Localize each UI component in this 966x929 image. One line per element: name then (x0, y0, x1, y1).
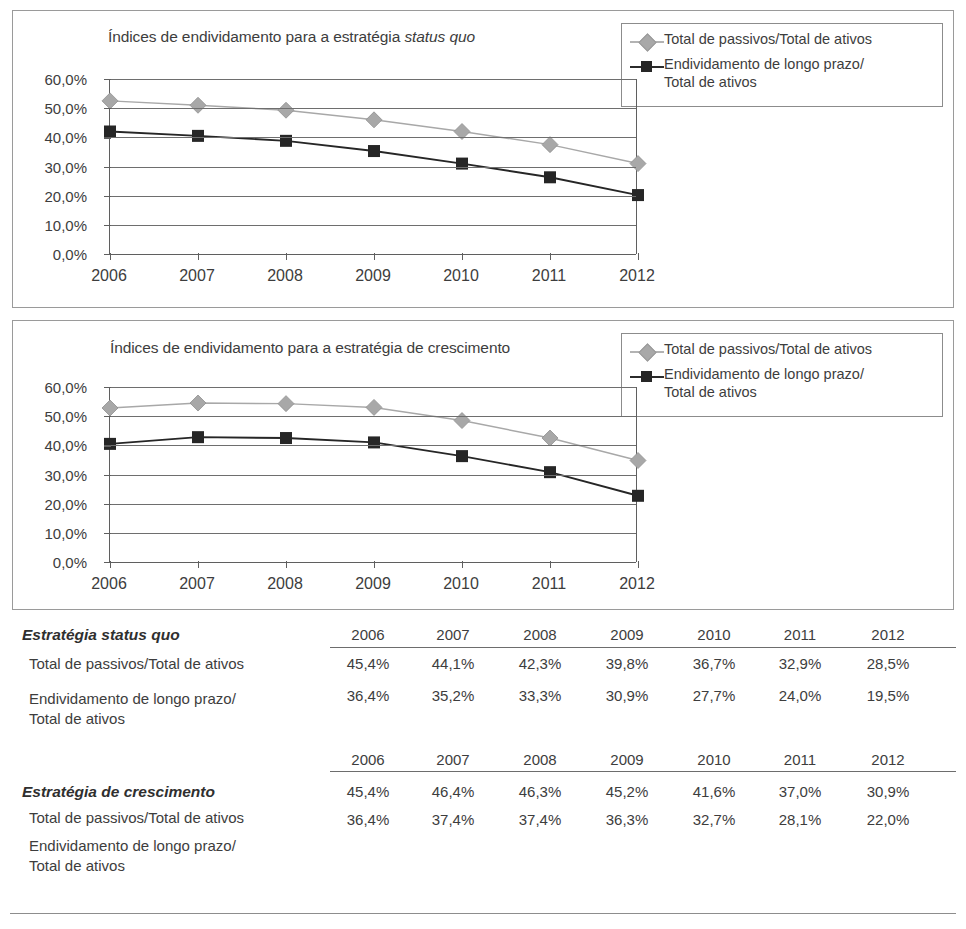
gridline (110, 137, 636, 138)
chart-title-crescimento: Índices de endividamento para a estratég… (110, 339, 510, 357)
data-point-square (192, 431, 204, 443)
gridline (110, 108, 636, 109)
x-axis-tick-label: 2011 (532, 267, 566, 285)
table-cell: 37,4% (432, 811, 475, 828)
table-cell: 42,3% (519, 655, 562, 672)
chart-panel-status-quo: Índices de endividamento para a estratég… (12, 10, 954, 308)
table-cell: 41,6% (693, 783, 736, 800)
data-point-diamond (630, 156, 646, 172)
gridline (110, 445, 636, 446)
x-axis-tick (110, 561, 111, 568)
series-line (110, 132, 638, 196)
x-axis-tick-label: 2012 (619, 267, 655, 285)
gridline (110, 225, 636, 226)
y-axis-tick-label: 60,0% (44, 379, 87, 396)
data-point-square (368, 436, 380, 448)
table-column-header: 2008 (523, 751, 556, 768)
x-axis-tick-label: 2012 (619, 575, 655, 593)
x-axis-tick (638, 561, 639, 568)
diamond-gray-icon (630, 343, 664, 360)
table-column-header: 2007 (436, 751, 469, 768)
table-column-header: 2006 (351, 751, 384, 768)
x-axis-tick (110, 253, 111, 260)
data-point-square (280, 432, 292, 444)
y-axis-tick-label: 50,0% (44, 408, 87, 425)
table-cell: 30,9% (606, 687, 649, 704)
x-axis-tick (374, 561, 375, 568)
x-axis-tick-label: 2008 (267, 267, 303, 285)
table-column-header: 2006 (351, 626, 384, 643)
chart-title-italic: status quo (404, 28, 475, 45)
x-axis-tick (286, 253, 287, 260)
x-axis-tick-label: 2011 (532, 575, 566, 593)
data-point-square (104, 126, 116, 138)
table-column-header: 2012 (871, 626, 904, 643)
table-cell: 36,7% (693, 655, 736, 672)
plot-canvas-1 (109, 79, 637, 254)
y-axis-tick-label: 20,0% (44, 187, 87, 204)
x-axis-tick (198, 561, 199, 568)
table-cell: 30,9% (867, 783, 910, 800)
y-axis-tick-label: 0,0% (53, 246, 87, 263)
x-axis-tick (638, 253, 639, 260)
table-column-header: 2009 (610, 751, 643, 768)
y-axis-tick (104, 445, 111, 446)
data-point-diamond (190, 97, 206, 113)
data-point-diamond (366, 399, 382, 415)
chart-title-status-quo: Índices de endividamento para a estratég… (108, 28, 475, 46)
legend-label: Endividamento de longo prazo/ Total de a… (664, 366, 864, 401)
data-point-diamond (630, 453, 646, 469)
data-point-square (368, 145, 380, 157)
diamond-gray-icon (630, 33, 664, 50)
table-column-header: 2011 (784, 626, 816, 643)
table-column-header: 2008 (523, 626, 556, 643)
y-axis-tick (104, 475, 111, 476)
x-axis-tick-label: 2006 (91, 267, 127, 285)
y-axis-tick-label: 30,0% (44, 158, 87, 175)
table-column-header: 2009 (610, 626, 643, 643)
y-axis-tick-label: 50,0% (44, 100, 87, 117)
y-axis-tick-label: 30,0% (44, 466, 87, 483)
table-cell: 27,7% (693, 687, 736, 704)
table-cell: 39,8% (606, 655, 649, 672)
x-axis-tick (374, 253, 375, 260)
x-axis-tick-label: 2007 (179, 267, 215, 285)
table-cell: 45,2% (606, 783, 649, 800)
y-axis-tick (104, 387, 111, 388)
x-axis-tick (462, 561, 463, 568)
table-cell: 36,4% (347, 811, 390, 828)
data-point-square (456, 450, 468, 462)
x-axis-tick (550, 253, 551, 260)
data-point-diamond (278, 102, 294, 118)
y-axis-tick (104, 196, 111, 197)
y-axis-tick (104, 79, 111, 80)
table-cell: 32,9% (779, 655, 822, 672)
table-cell: 35,2% (432, 687, 475, 704)
table-cell: 44,1% (432, 655, 475, 672)
y-axis-tick (104, 533, 111, 534)
x-axis-tick-label: 2007 (179, 575, 215, 593)
table-cell: 37,0% (779, 783, 822, 800)
data-point-square (632, 490, 644, 502)
gridline (110, 416, 636, 417)
table-row-label: Total de passivos/Total de ativos (29, 654, 244, 674)
data-point-diamond (278, 396, 294, 412)
x-axis-tick-label: 2009 (355, 575, 391, 593)
x-axis-tick (462, 253, 463, 260)
legend-label: Endividamento de longo prazo/ Total de a… (664, 56, 864, 91)
table-title-status-quo: Estratégia status quo (22, 626, 180, 644)
table-cell: 22,0% (867, 811, 910, 828)
data-point-diamond (454, 413, 470, 429)
y-axis-tick-label: 0,0% (53, 554, 87, 571)
y-axis-tick-label: 40,0% (44, 129, 87, 146)
y-axis-tick-label: 60,0% (44, 71, 87, 88)
bottom-divider (10, 913, 956, 914)
x-axis-tick-label: 2009 (355, 267, 391, 285)
table-cell: 36,4% (347, 687, 390, 704)
table-header-rule (330, 647, 956, 648)
y-axis-tick (104, 504, 111, 505)
x-axis-tick-label: 2010 (443, 267, 479, 285)
table-column-header: 2011 (784, 751, 816, 768)
table-header-rule (330, 771, 956, 772)
table-column-header: 2007 (436, 626, 469, 643)
